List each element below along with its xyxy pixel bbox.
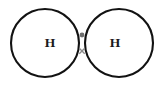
atom-label-left-hydrogen: H xyxy=(45,35,56,50)
electron-cross-icon xyxy=(79,48,84,53)
electron-dot-icon xyxy=(80,33,85,38)
diagram-canvas: H H xyxy=(0,0,164,86)
atom-label-right-hydrogen: H xyxy=(110,35,121,50)
dot-and-cross-diagram: H H xyxy=(0,0,164,86)
